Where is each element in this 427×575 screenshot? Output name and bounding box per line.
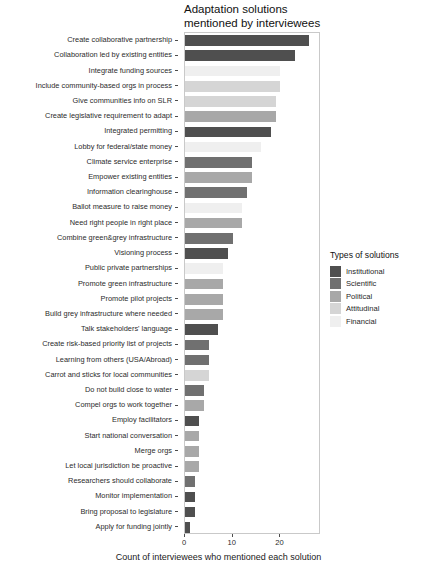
y-tick-label: Collaboration led by existing entities: [54, 50, 172, 59]
y-tick-mark: [175, 146, 178, 147]
y-tick-mark: [175, 389, 178, 390]
bar-row: [185, 127, 319, 138]
legend-label: Institutional: [346, 267, 384, 276]
chart-legend: Types of solutions InstitutionalScientif…: [330, 250, 425, 328]
legend-swatch-icon: [330, 278, 341, 289]
x-axis-title: Count of interviewees who mentioned each…: [0, 552, 427, 562]
bar: [185, 172, 252, 183]
bar-row: [185, 203, 319, 214]
y-tick-label: Climate service enterprise: [87, 157, 172, 166]
y-tick-label: Carrot and sticks for local communities: [45, 370, 172, 379]
x-axis: 01020: [184, 534, 320, 552]
bar-row: [185, 416, 319, 427]
y-tick-label: Create risk-based priority list of proje…: [42, 339, 172, 348]
y-tick-label: Lobby for federal/state money: [74, 142, 172, 151]
bar-row: [185, 187, 319, 198]
y-tick-mark: [175, 177, 178, 178]
y-tick-label: Let local jurisdiction be proactive: [65, 461, 172, 470]
bar: [185, 263, 223, 274]
y-tick-mark: [175, 253, 178, 254]
y-tick-mark: [175, 298, 178, 299]
bar: [185, 187, 247, 198]
legend-label: Political: [346, 292, 372, 301]
y-tick-label: Give communities info on SLR: [73, 96, 172, 105]
x-tick-label: 10: [227, 538, 235, 547]
legend-swatch-icon: [330, 291, 341, 302]
bar: [185, 446, 199, 457]
y-tick-mark: [175, 100, 178, 101]
y-tick-mark: [175, 329, 178, 330]
y-tick-label: Promote green infrastructure: [78, 279, 172, 288]
bar-row: [185, 324, 319, 335]
bar: [185, 324, 218, 335]
legend-label: Scientific: [346, 279, 376, 288]
legend-swatch-icon: [330, 316, 341, 327]
bar: [185, 96, 276, 107]
bar: [185, 127, 271, 138]
bar-row: [185, 370, 319, 381]
bar: [185, 385, 204, 396]
x-tick-mark: [279, 534, 280, 537]
bar: [185, 218, 242, 229]
y-tick-mark: [175, 283, 178, 284]
y-tick-label: Create collaborative partnership: [67, 35, 172, 44]
bar-row: [185, 96, 319, 107]
bar: [185, 279, 223, 290]
legend-swatch-icon: [330, 266, 341, 277]
legend-label: Attitudinal: [346, 304, 379, 313]
bar-row: [185, 446, 319, 457]
bar: [185, 203, 242, 214]
bar: [185, 142, 261, 153]
bars-layer: [185, 33, 319, 533]
legend-item[interactable]: Scientific: [330, 278, 425, 290]
y-tick-mark: [175, 161, 178, 162]
y-tick-mark: [175, 237, 178, 238]
y-tick-label: Information clearinghouse: [87, 187, 172, 196]
bar: [185, 476, 195, 487]
bar: [185, 522, 190, 533]
y-tick-mark: [175, 420, 178, 421]
y-tick-label: Need right people in right place: [70, 218, 172, 227]
y-tick-label: Start national conversation: [84, 431, 172, 440]
bar-row: [185, 157, 319, 168]
x-tick-label: 20: [275, 538, 283, 547]
y-tick-label: Do not build close to water: [85, 385, 172, 394]
y-tick-mark: [175, 207, 178, 208]
bar: [185, 309, 223, 320]
y-tick-label: Create legislative requirement to adapt: [45, 111, 172, 120]
y-tick-label: Integrate funding sources: [89, 66, 172, 75]
legend-label: Financial: [346, 317, 376, 326]
y-tick-mark: [175, 374, 178, 375]
bar-row: [185, 66, 319, 77]
y-tick-mark: [175, 344, 178, 345]
y-tick-label: Apply for funding jointly: [96, 522, 172, 531]
bar-row: [185, 263, 319, 274]
y-tick-mark: [175, 116, 178, 117]
y-tick-mark: [175, 222, 178, 223]
bar-row: [185, 35, 319, 46]
plot-panel: [184, 32, 320, 534]
legend-item[interactable]: Institutional: [330, 265, 425, 277]
y-tick-mark: [175, 131, 178, 132]
legend-item[interactable]: Financial: [330, 315, 425, 327]
legend-item[interactable]: Attitudinal: [330, 303, 425, 315]
chart-title: Adaptation solutions mentioned by interv…: [184, 3, 414, 30]
y-tick-mark: [175, 496, 178, 497]
bar: [185, 66, 280, 77]
y-tick-label: Researchers should collaborate: [68, 476, 172, 485]
bar-row: [185, 81, 319, 92]
x-tick-label: 0: [182, 538, 186, 547]
bar-row: [185, 522, 319, 533]
y-tick-label: Combine green&grey infrastructure: [57, 233, 172, 242]
bar-row: [185, 294, 319, 305]
bar: [185, 416, 199, 427]
bar-row: [185, 461, 319, 472]
bar-row: [185, 476, 319, 487]
bar-row: [185, 507, 319, 518]
y-tick-label: Include community-based orgs in process: [36, 81, 172, 90]
y-tick-mark: [175, 85, 178, 86]
bar: [185, 461, 199, 472]
y-tick-label: Promote pilot projects: [101, 294, 172, 303]
legend-item[interactable]: Political: [330, 290, 425, 302]
y-tick-mark: [175, 192, 178, 193]
